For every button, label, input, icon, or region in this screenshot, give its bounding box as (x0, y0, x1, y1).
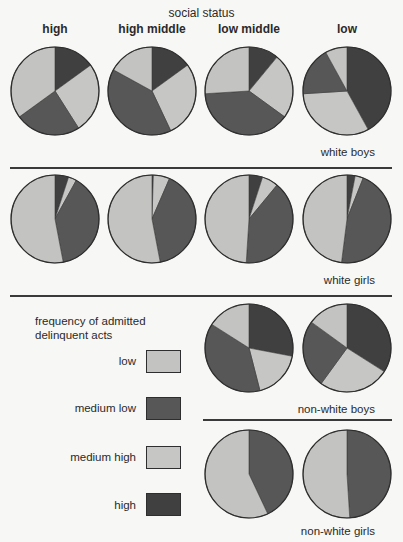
pie-white-boys-low-middle (203, 45, 295, 137)
divider-line (10, 167, 392, 169)
legend-title: frequency of admitted delinquent acts (35, 314, 175, 342)
column-header-high: high (5, 22, 105, 36)
legend-swatch-low (146, 350, 181, 373)
column-header-low-middle: low middle (199, 22, 299, 36)
legend-label-high: high (16, 499, 136, 511)
pie-slice-low (205, 175, 249, 263)
pie-non-white-girls-low (301, 428, 393, 520)
legend-label-medium-high: medium high (16, 451, 136, 463)
pie-white-girls-high (9, 173, 101, 265)
legend-swatch-medium-low (146, 397, 181, 420)
divider-line (203, 419, 392, 421)
pie-slice-low (303, 175, 347, 263)
legend-swatch-medium-high (146, 446, 181, 469)
group-label-non-white-girls: non-white girls (301, 525, 375, 537)
divider-line (10, 295, 392, 297)
pie-non-white-girls-low-middle (203, 428, 295, 520)
pie-slice-low (205, 47, 249, 94)
column-header-high-middle: high middle (102, 22, 202, 36)
chart-title: social status (0, 6, 403, 20)
pie-non-white-boys-low (301, 302, 393, 394)
pie-white-boys-low (301, 45, 393, 137)
pie-white-boys-high-middle (106, 45, 198, 137)
legend-label-low: low (16, 355, 136, 367)
pie-white-girls-high-middle (106, 173, 198, 265)
legend-label-medium-low: medium low (16, 402, 136, 414)
pie-white-girls-low (301, 173, 393, 265)
legend-swatch-high (146, 493, 181, 516)
group-label-white-boys: white boys (321, 146, 375, 158)
pie-slice-high (249, 304, 293, 356)
pie-slice-medium-low (347, 430, 391, 518)
pie-non-white-boys-low-middle (203, 302, 295, 394)
group-label-white-girls: white girls (324, 274, 375, 286)
pie-white-boys-high (9, 45, 101, 137)
pie-white-girls-low-middle (203, 173, 295, 265)
group-label-non-white-boys: non-white boys (298, 403, 375, 415)
pie-slice-low (303, 430, 350, 518)
column-header-low: low (297, 22, 397, 36)
